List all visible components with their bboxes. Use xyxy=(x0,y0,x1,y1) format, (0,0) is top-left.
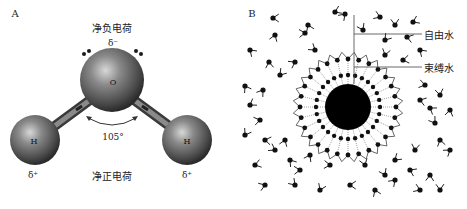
panel-a-letter: A xyxy=(11,8,18,19)
oxygen-label: O xyxy=(110,78,117,87)
free-water-label: 自由水 xyxy=(424,27,454,42)
bond-right xyxy=(134,100,172,128)
delta-plus-left-label: δ⁺ xyxy=(28,170,38,180)
delta-plus-right-label: δ⁺ xyxy=(182,170,192,180)
bond-left xyxy=(52,100,90,128)
figure: A 净负电荷 δ⁻ O H H 105° 净正电荷 δ⁺ δ⁺ B 自由水 束缚… xyxy=(0,0,467,209)
net-positive-charge-label: 净正电荷 xyxy=(92,168,132,183)
hydrogen-right-label: H xyxy=(184,137,191,146)
bond-angle-label: 105° xyxy=(102,132,124,142)
lone-pair-right xyxy=(134,49,143,56)
delta-minus-label: δ⁻ xyxy=(108,38,118,48)
panel-b-letter: B xyxy=(248,8,255,19)
lone-pair-left xyxy=(82,49,91,56)
central-particle xyxy=(325,84,371,130)
net-negative-charge-label: 净负电荷 xyxy=(92,20,132,35)
bound-water-label: 束缚水 xyxy=(424,60,454,75)
bond-angle-arc xyxy=(86,116,138,125)
hydrogen-left-label: H xyxy=(31,137,38,146)
